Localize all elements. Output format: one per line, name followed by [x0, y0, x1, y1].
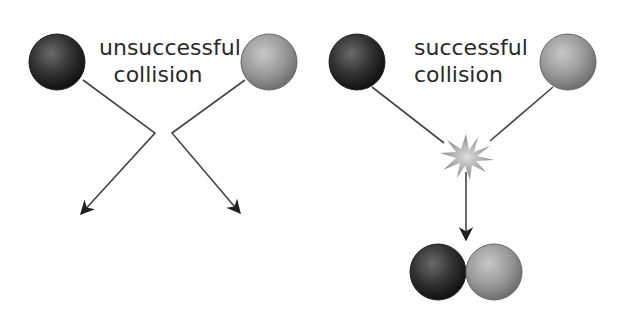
dark-particle-path: [372, 87, 444, 143]
grey-particle-path: [490, 87, 553, 141]
dark-particle: [29, 34, 85, 90]
grey-particle-path: [172, 80, 245, 213]
dark-particle-path: [81, 80, 155, 214]
label-line-1: successful: [414, 34, 534, 61]
label-line-2: collision: [414, 61, 534, 88]
product-grey-particle: [466, 244, 522, 300]
grey-particle: [540, 34, 596, 90]
dark-particle: [329, 34, 385, 90]
label-line-2: collision: [99, 61, 217, 88]
product-dark-particle: [410, 244, 466, 300]
label-line-1: unsuccessful: [99, 34, 217, 61]
starburst-icon: [440, 134, 494, 180]
successful-collision-label: successful collision: [414, 34, 534, 88]
grey-particle: [241, 34, 297, 90]
unsuccessful-collision-label: unsuccessful collision: [99, 34, 217, 88]
